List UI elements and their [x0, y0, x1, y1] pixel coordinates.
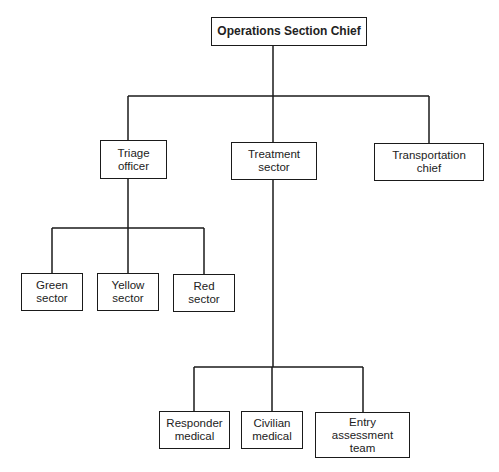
- node-red-sector: Red sector: [173, 274, 235, 312]
- node-triage-officer: Triage officer: [100, 140, 167, 179]
- node-responder-medical: Responder medical: [159, 411, 230, 449]
- node-treatment-sector: Treatment sector: [231, 142, 317, 180]
- node-yellow-sector: Yellow sector: [97, 273, 159, 311]
- node-civilian-medical: Civilian medical: [241, 411, 303, 449]
- node-operations-section-chief: Operations Section Chief: [211, 17, 367, 46]
- node-green-sector: Green sector: [21, 273, 83, 311]
- connector-lines: [0, 0, 499, 472]
- node-transportation-chief: Transportation chief: [374, 143, 484, 181]
- node-entry-assessment-team: Entry assessment team: [315, 412, 410, 458]
- org-chart: Operations Section Chief Triage officer …: [0, 0, 499, 472]
